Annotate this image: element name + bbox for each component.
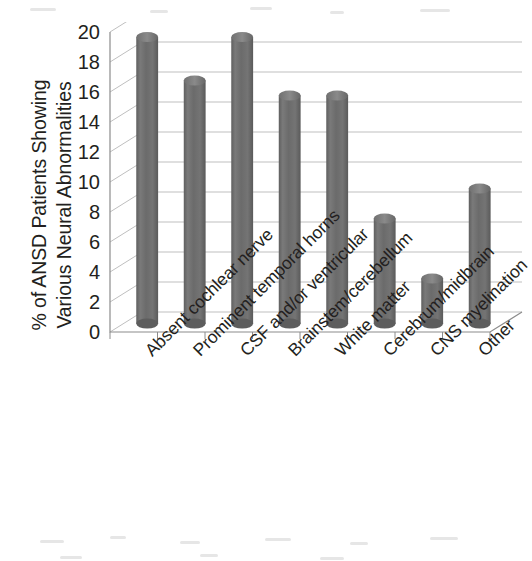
bar-0 bbox=[136, 32, 158, 329]
y-tick-18: 18 bbox=[66, 52, 100, 72]
y-tick-10: 10 bbox=[66, 172, 100, 192]
y-tick-16: 16 bbox=[66, 82, 100, 102]
y-tick-2: 2 bbox=[66, 292, 100, 312]
y-tick-0: 0 bbox=[66, 322, 100, 342]
y-tick-8: 8 bbox=[66, 202, 100, 222]
y-tick-6: 6 bbox=[66, 232, 100, 252]
y-tick-20: 20 bbox=[66, 22, 100, 42]
y-tick-14: 14 bbox=[66, 112, 100, 132]
y-tick-12: 12 bbox=[66, 142, 100, 162]
y-tick-4: 4 bbox=[66, 262, 100, 282]
y-axis-title-line-1: % of ANSD Patients Showing bbox=[27, 79, 52, 330]
